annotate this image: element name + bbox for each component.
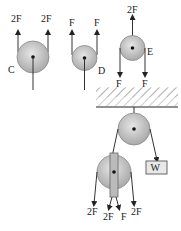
pulley-label: E [147, 46, 153, 57]
force-label: 2F [131, 206, 142, 217]
movable-pulley: 2F 2F F 2F [87, 153, 142, 222]
pulley-diagram: 2F 2F C F F D 2F F F E [0, 0, 181, 231]
weight-block: W [146, 161, 167, 174]
force-label: F [94, 17, 100, 28]
force-label: F [69, 17, 75, 28]
force-label: 2F [127, 4, 138, 15]
force-label: 2F [103, 211, 114, 222]
pulley-label: C [8, 64, 15, 75]
weight-label: W [151, 162, 161, 173]
pulley-c: 2F 2F C [8, 13, 52, 90]
pulley-e: 2F F F E [116, 4, 153, 89]
pulley-d: F F D [69, 17, 105, 90]
fixed-pulley [112, 107, 157, 160]
ceiling [96, 87, 178, 107]
force-label: 2F [41, 13, 52, 24]
force-label: F [121, 211, 127, 222]
pulley-label: D [98, 65, 105, 76]
force-label: 2F [11, 13, 22, 24]
force-label: 2F [87, 206, 98, 217]
